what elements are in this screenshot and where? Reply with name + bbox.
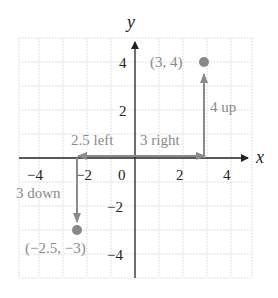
right-label: 3 right — [140, 132, 180, 148]
x-axis-label: x — [255, 147, 264, 167]
down-label: 3 down — [16, 185, 61, 201]
point-a-label: (3, 4) — [150, 54, 183, 71]
x-tick-label: 4 — [223, 167, 231, 183]
y-tick-label: −4 — [107, 247, 123, 263]
y-tick-label: −2 — [107, 199, 123, 215]
x-tick-label: 0 — [118, 167, 126, 183]
x-tick-label: 2 — [176, 167, 184, 183]
left-label: 2.5 left — [71, 132, 114, 148]
y-tick-label: 4 — [119, 55, 127, 71]
point-neg2.5-neg3 — [72, 225, 82, 235]
y-tick-label: 2 — [119, 103, 127, 119]
x-tick-label: −2 — [76, 167, 92, 183]
point-3-4 — [199, 57, 209, 67]
up-label: 4 up — [210, 99, 236, 115]
coordinate-plane-figure: x y −4 −2 0 2 4 4 2 −2 −4 (3, 4) 4 up 2.… — [0, 0, 278, 298]
point-b-label: (−2.5, −3) — [25, 240, 86, 257]
x-tick-label: −4 — [27, 167, 43, 183]
y-axis-label: y — [125, 12, 135, 32]
